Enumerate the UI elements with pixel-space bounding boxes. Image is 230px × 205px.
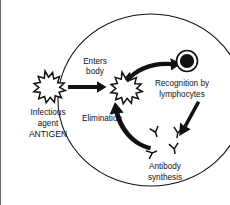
immune-response-diagram: Enters body Recognition by lymphocytes [0, 0, 230, 205]
antibody-label-line1: Antibody [149, 162, 182, 171]
lymphocyte-nucleus [180, 54, 194, 68]
infectious-agent-label-line3: ANTIGEN [29, 129, 67, 139]
secretion-arrow [179, 101, 200, 136]
enters-body-label-line2: body [86, 67, 105, 76]
infectious-agent-label-line2: agent [38, 119, 59, 128]
entry-arrow [68, 81, 107, 92]
lymphocyte-cell [177, 51, 198, 72]
recognition-label-line2: lymphocytes [159, 90, 205, 99]
elimination-label: Elimination [82, 114, 122, 123]
elimination-arrow [110, 102, 151, 150]
antibody-symbol [169, 143, 180, 155]
enters-body-label-line1: Enters [83, 57, 107, 66]
diagram-canvas: Enters body Recognition by lymphocytes [1, 0, 230, 205]
antibody-group [146, 126, 183, 159]
antibody-label-line2: synthesis [148, 173, 182, 182]
recognition-label-line1: Recognition by [155, 79, 210, 88]
antigen-outside-shape [34, 71, 66, 103]
antigen-inside-shape [111, 72, 143, 104]
infectious-agent-label-line1: Infectious [30, 108, 65, 117]
body-boundary-ellipse [58, 14, 230, 186]
antibody-symbol [150, 126, 162, 138]
